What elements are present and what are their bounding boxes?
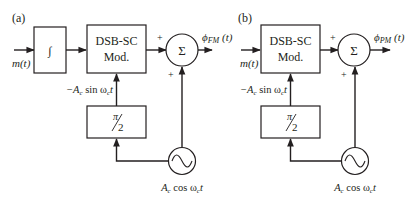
panel-a-label: (a): [12, 11, 25, 25]
narrowband-fm-pm-diagram: (a) m(t) ∫ DSB-SC Mod. + Σ + ϕFM (t) −Ac…: [0, 0, 414, 201]
modulator-label-line1: DSB-SC: [269, 34, 311, 48]
input-label: m(t): [12, 57, 31, 70]
oscillator-label: Ac cos ωct: [333, 182, 377, 195]
panel-b: (b) m(t) DSB-SC Mod. + Σ + ϕPM (t) −Ac s…: [238, 11, 405, 195]
dsb-sc-modulator-block: [261, 25, 320, 73]
output-label: ϕFM (t): [202, 31, 233, 45]
sum-plus-bottom: +: [168, 69, 174, 80]
integrator-symbol: ∫: [47, 44, 52, 58]
output-label: ϕPM (t): [374, 31, 405, 45]
sum-symbol: Σ: [178, 43, 186, 58]
phase-shift-denominator: 2: [118, 121, 124, 133]
modulator-label-line2: Mod.: [278, 50, 304, 64]
input-label: m(t): [240, 57, 259, 70]
carrier-sin-label: −Ac sin ωct: [240, 84, 288, 97]
sum-plus-top: +: [330, 32, 336, 43]
sum-symbol: Σ: [350, 43, 358, 58]
oscillator-label: Ac cos ωct: [160, 182, 204, 195]
osc-to-phase-arrow: [291, 139, 342, 161]
osc-to-phase-arrow: [117, 139, 169, 161]
modulator-label-line1: DSB-SC: [95, 34, 137, 48]
carrier-sin-label: −Ac sin ωct: [66, 84, 114, 97]
sum-plus-bottom: +: [341, 69, 347, 80]
panel-a: (a) m(t) ∫ DSB-SC Mod. + Σ + ϕFM (t) −Ac…: [12, 11, 233, 195]
modulator-label-line2: Mod.: [104, 50, 130, 64]
sum-plus-top: +: [157, 32, 163, 43]
panel-b-label: (b): [238, 11, 252, 25]
phase-shift-denominator: 2: [292, 121, 298, 133]
dsb-sc-modulator-block: [87, 25, 146, 73]
